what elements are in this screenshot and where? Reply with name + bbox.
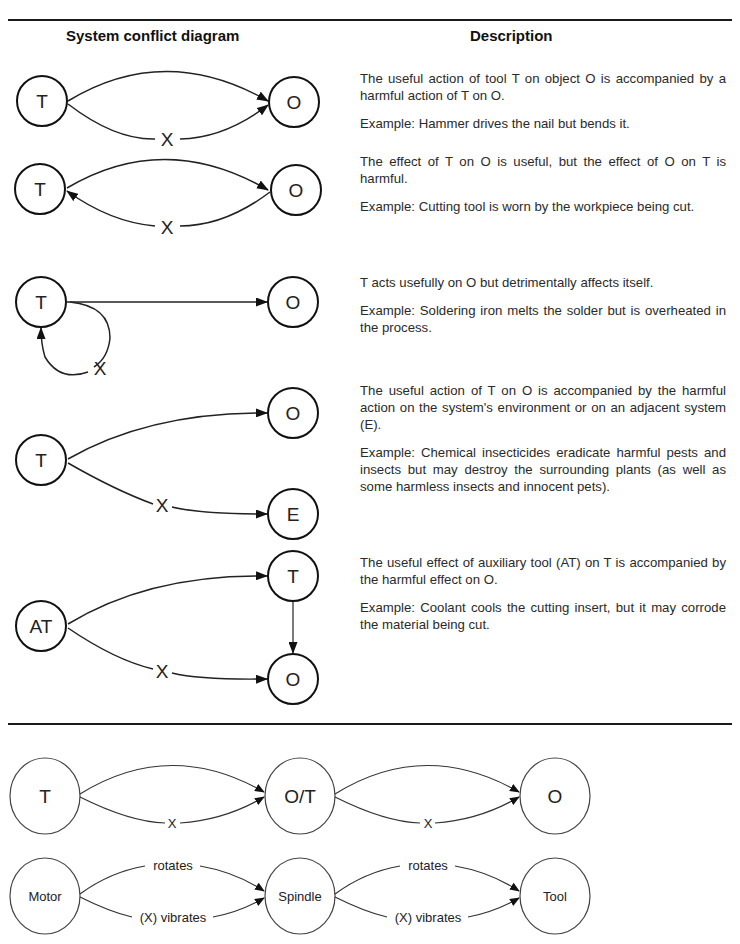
harm-label: (X) vibrates	[395, 910, 462, 925]
diagram-canvas: T O X T O X T O X T O E X	[0, 0, 740, 944]
useful-arrow	[67, 159, 268, 190]
node-label: O	[286, 292, 301, 313]
node-label: O	[548, 786, 563, 807]
node-label: Tool	[543, 889, 567, 904]
harm-mark: X	[161, 217, 174, 238]
harm-mark: X	[424, 816, 433, 831]
row-1-diagram: T O X	[17, 72, 319, 151]
harm-mark: X	[156, 495, 169, 516]
node-label: O	[289, 180, 304, 201]
node-label: Spindle	[278, 889, 321, 904]
chain-generic-diagram: T O/T O X X	[10, 758, 590, 834]
node-label: T	[287, 566, 299, 587]
node-label: E	[287, 504, 300, 525]
useful-arrow	[80, 765, 264, 794]
node-label: Motor	[28, 889, 62, 904]
node-label: T	[35, 292, 47, 313]
harm-mark: X	[161, 129, 174, 150]
row-2-diagram: T O X	[15, 159, 321, 238]
useful-label: rotates	[408, 858, 448, 873]
harm-label: (X) vibrates	[140, 910, 207, 925]
node-label: O	[286, 403, 301, 424]
node-label: AT	[30, 616, 53, 637]
node-label: T	[34, 179, 46, 200]
node-label: T	[35, 450, 47, 471]
node-label: T	[39, 786, 51, 807]
harm-mark: X	[156, 661, 169, 682]
row-5-diagram: AT T O X	[16, 551, 318, 704]
useful-arrow	[68, 576, 267, 624]
useful-arrow	[335, 765, 519, 794]
useful-arrow	[68, 413, 267, 459]
node-label: O	[286, 669, 301, 690]
row-4-diagram: T O E X	[16, 388, 318, 539]
harm-mark: X	[168, 816, 177, 831]
node-label: O/T	[284, 786, 316, 807]
useful-label: rotates	[153, 858, 193, 873]
row-3-diagram: T O X	[16, 277, 318, 379]
node-label: T	[36, 91, 48, 112]
useful-arrow	[68, 72, 268, 102]
harm-mark: X	[94, 358, 107, 379]
chain-example-diagram: Motor Spindle Tool rotates (X) vibrates …	[10, 858, 590, 934]
node-label: O	[287, 92, 302, 113]
